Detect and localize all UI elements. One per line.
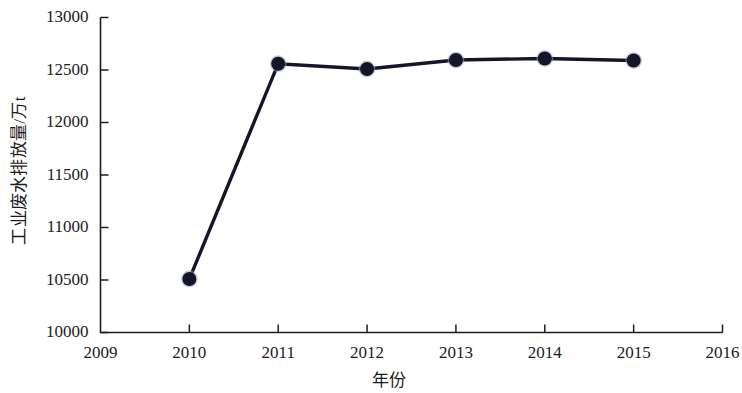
x-tick-label: 2009 <box>84 343 118 362</box>
y-tick-label: 10500 <box>46 270 89 289</box>
x-tick-label: 2013 <box>439 343 473 362</box>
x-axis-ticks: 20092010201120122013201420152016 <box>84 325 740 362</box>
x-tick-label: 2016 <box>706 343 740 362</box>
y-axis-ticks: 10000105001100011500120001250013000 <box>46 7 109 341</box>
chart-figure: 工业废水排放量/万t 10000105001100011500120001250… <box>0 0 742 393</box>
x-tick-label: 2011 <box>262 343 295 362</box>
y-tick-label: 12000 <box>46 112 89 131</box>
data-point <box>538 51 552 65</box>
data-point <box>627 54 641 68</box>
x-axis-title: 年份 <box>0 366 742 391</box>
data-series-line <box>189 58 633 279</box>
x-tick-label: 2012 <box>350 343 384 362</box>
y-tick-label: 10000 <box>46 322 89 341</box>
data-point-markers <box>181 50 642 287</box>
line-chart-plot: 10000105001100011500120001250013000 2009… <box>0 0 742 393</box>
data-point <box>271 57 285 71</box>
x-tick-label: 2015 <box>617 343 651 362</box>
x-tick-label: 2014 <box>528 343 563 362</box>
y-tick-label: 12500 <box>46 60 89 79</box>
y-tick-label: 11500 <box>47 165 89 184</box>
y-tick-label: 11000 <box>47 217 89 236</box>
x-axis-title-text: 年份 <box>372 366 407 391</box>
data-point <box>360 62 374 76</box>
x-tick-label: 2010 <box>172 343 206 362</box>
data-point <box>182 272 196 286</box>
y-tick-label: 13000 <box>46 7 89 26</box>
data-point <box>449 53 463 67</box>
